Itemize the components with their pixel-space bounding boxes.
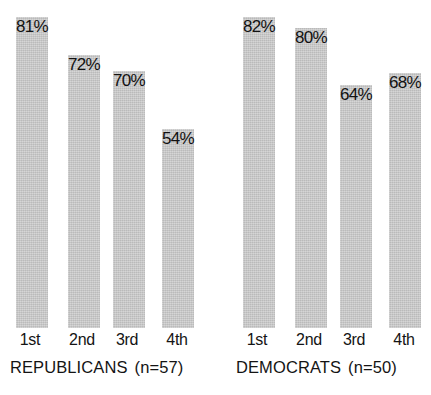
tick-labels-democrats: 1st 2nd 3rd 4th — [243, 330, 420, 352]
group-caption-democrats: DEMOCRATS(n=50) — [236, 357, 397, 377]
tick-label-1st: 1st — [241, 330, 273, 350]
bar-rect — [243, 17, 275, 328]
group-caption-text: REPUBLICANS — [10, 358, 128, 376]
bar-rect — [295, 28, 327, 328]
tick-labels-republicans: 1st 2nd 3rd 4th — [16, 330, 194, 352]
tick-label-2nd: 2nd — [293, 330, 325, 350]
group-caption-republicans: REPUBLICANS(n=57) — [10, 357, 183, 377]
bar-rect — [113, 71, 145, 328]
tick-label-3rd: 3rd — [111, 330, 143, 350]
bar-rect — [16, 17, 48, 328]
bar-rect — [389, 73, 421, 328]
bar-rect — [68, 55, 100, 328]
plot-area: 81% 72% 70% 54% 82% 80% — [0, 0, 431, 328]
tick-label-3rd: 3rd — [338, 330, 370, 350]
bar-group-republicans: 81% 72% 70% 54% — [16, 0, 194, 328]
bar-rect — [162, 129, 194, 328]
bar-chart: 81% 72% 70% 54% 82% 80% — [0, 0, 431, 395]
group-caption-text: DEMOCRATS — [236, 358, 341, 376]
tick-label-4th: 4th — [161, 330, 193, 350]
bar-rect — [340, 85, 372, 328]
bar-group-democrats: 82% 80% 64% 68% — [243, 0, 420, 328]
tick-label-4th: 4th — [388, 330, 420, 350]
group-sample-size: (n=57) — [135, 358, 184, 376]
group-sample-size: (n=50) — [348, 358, 397, 376]
tick-label-2nd: 2nd — [66, 330, 98, 350]
tick-label-1st: 1st — [14, 330, 46, 350]
